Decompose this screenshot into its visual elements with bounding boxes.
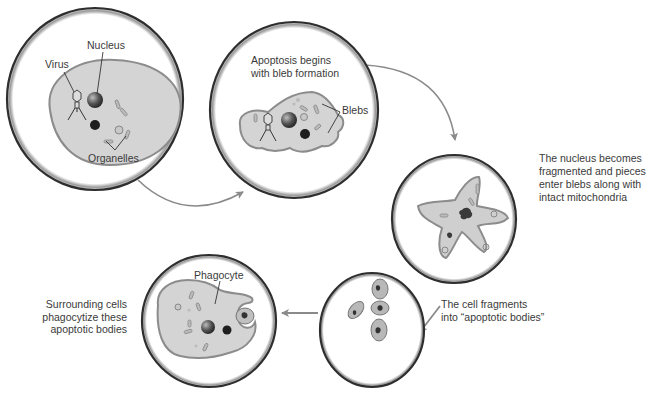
label-phagocyte: Phagocyte (194, 269, 244, 282)
stage-2-caption: Apoptosis begins with bleb formation (251, 54, 339, 79)
stage-4-circle (320, 273, 424, 387)
label-organelles: Organelles (88, 152, 139, 165)
arrow-1-to-2 (138, 180, 243, 206)
stage-3-circle (392, 155, 516, 283)
label-blebs: Blebs (342, 104, 368, 117)
stage-4-caption: The cell fragments into “apoptotic bodie… (441, 298, 544, 323)
label-nucleus: Nucleus (87, 39, 125, 52)
nucleus-icon (87, 92, 103, 108)
stage-3-caption: The nucleus becomes fragmented and piece… (539, 152, 646, 204)
stage-5-caption: Surrounding cells phagocytize these apop… (30, 298, 127, 336)
label-virus: Virus (45, 58, 69, 71)
